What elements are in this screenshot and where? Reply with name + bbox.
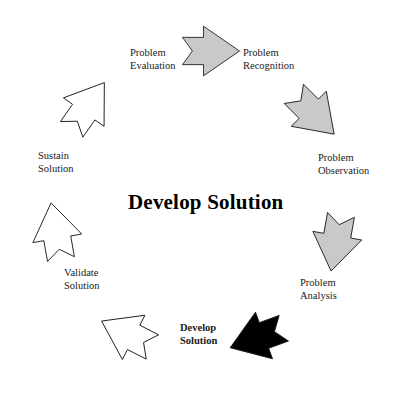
stage-label-line2: Solution: [180, 335, 217, 348]
stage-label-problem-evaluation: ProblemEvaluation: [130, 47, 176, 72]
stage-label-line1: Validate: [64, 267, 100, 280]
stage-label-develop-solution: DevelopSolution: [180, 322, 217, 347]
stage-label-line1: Sustain: [38, 150, 74, 163]
arrow-problem-recognition: [182, 26, 239, 76]
stage-label-line1: Problem: [243, 47, 294, 60]
stage-label-line2: Solution: [64, 280, 100, 293]
stage-label-line2: Solution: [38, 163, 74, 176]
stage-label-problem-analysis: ProblemAnalysis: [300, 277, 337, 302]
center-title: Develop Solution: [128, 190, 283, 215]
stage-label-sustain-solution: SustainSolution: [38, 150, 74, 175]
stage-label-line2: Analysis: [300, 290, 337, 303]
arrow-validate-solution: [27, 199, 86, 264]
arrow-problem-analysis: [307, 211, 366, 276]
arrow-develop-solution: [222, 305, 293, 371]
stage-label-line1: Problem: [130, 47, 176, 60]
stage-label-line2: Observation: [318, 165, 369, 178]
stage-label-line1: Problem: [300, 277, 337, 290]
stage-label-problem-recognition: ProblemRecognition: [243, 47, 294, 72]
stage-label-line2: Recognition: [243, 60, 294, 73]
arrow-problem-observation: [276, 76, 351, 151]
arrow-validate-solution-arrow-stage: [90, 299, 163, 369]
process-cycle-diagram: Develop Solution ProblemRecognitionProbl…: [0, 0, 394, 393]
arrow-sustain-solution: [51, 68, 124, 143]
stage-label-line1: Problem: [318, 152, 369, 165]
stage-label-line2: Evaluation: [130, 60, 176, 73]
stage-label-problem-observation: ProblemObservation: [318, 152, 369, 177]
stage-label-validate-solution: ValidateSolution: [64, 267, 100, 292]
stage-label-line1: Develop: [180, 322, 217, 335]
